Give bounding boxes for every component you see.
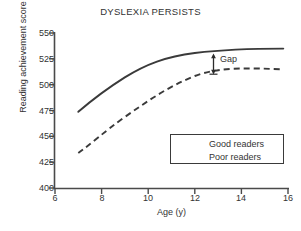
series-line-good-readers (78, 49, 283, 112)
legend-item-label: Poor readers (206, 152, 261, 162)
legend-solid-line-icon (176, 138, 206, 149)
y-tick-marks (49, 33, 54, 188)
chart-legend: Good readers Poor readers (170, 134, 284, 164)
legend-item-label: Good readers (206, 139, 264, 149)
legend-dashed-line-icon (176, 151, 206, 162)
gap-annotation-label: Gap (220, 54, 237, 64)
x-tick-marks (55, 189, 288, 194)
legend-item-good-readers: Good readers (176, 137, 264, 150)
legend-item-poor-readers: Poor readers (176, 150, 261, 163)
chart-figure: DYSLEXIA PERSISTS Reading achievement sc… (0, 0, 301, 231)
plot-area (0, 0, 301, 231)
